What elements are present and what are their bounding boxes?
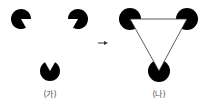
pacman-shape-2 [68,9,88,29]
panel-label-ga: (가) [43,88,56,99]
illusory-triangle [130,19,187,71]
pacman-shape-3 [40,62,60,81]
arrow-head-icon [104,41,108,45]
pacman-shape-1 [11,9,31,29]
panel-label-na: (나) [152,88,165,99]
kanizsa-figure [0,0,203,108]
